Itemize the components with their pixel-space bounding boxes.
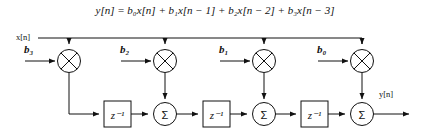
coefficient-label-b2: b₂ xyxy=(120,43,130,55)
coefficient-label-b1: b₁ xyxy=(219,43,228,55)
delay-3-label: z⁻¹ xyxy=(307,109,322,121)
delay-3[interactable]: z⁻¹ xyxy=(301,101,328,127)
adder-2[interactable]: Σ xyxy=(253,103,276,126)
multiplier-b0[interactable] xyxy=(351,50,374,73)
multiplier-b3[interactable] xyxy=(58,50,81,73)
input-label: x[n] xyxy=(16,32,30,42)
adder-3-label: Σ xyxy=(359,109,366,121)
multiplier-b1[interactable] xyxy=(253,50,276,73)
coefficient-label-b3: b₃ xyxy=(24,43,34,55)
multiplier-b2[interactable] xyxy=(154,50,177,73)
adder-1-label: Σ xyxy=(162,109,169,121)
delay-2[interactable]: z⁻¹ xyxy=(203,101,230,127)
adder-1[interactable]: Σ xyxy=(154,103,177,126)
equation-text: y[n] = b₀x[n] + b₁x[n − 1] + b₂x[n − 2] … xyxy=(95,4,335,16)
input-bus xyxy=(38,38,362,44)
wire-mult-b3-to-delay-1 xyxy=(69,73,99,114)
delay-1[interactable]: z⁻¹ xyxy=(104,101,131,127)
fir-filter-block-diagram: y[n] = b₀x[n] + b₁x[n − 1] + b₂x[n − 2] … xyxy=(0,0,431,134)
adder-2-label: Σ xyxy=(261,109,268,121)
figure-canvas: y[n] = b₀x[n] + b₁x[n − 1] + b₂x[n − 2] … xyxy=(0,0,431,134)
delay-1-label: z⁻¹ xyxy=(110,109,125,121)
delay-2-label: z⁻¹ xyxy=(209,109,224,121)
coefficient-label-b0: b₀ xyxy=(317,43,327,55)
adder-3[interactable]: Σ xyxy=(351,103,374,126)
output-label: y[n] xyxy=(379,89,393,99)
